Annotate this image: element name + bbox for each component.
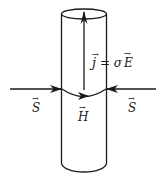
vector-arrow-S-left-icon: → (32, 94, 39, 103)
current-label-eq: = σ (100, 56, 123, 70)
vector-arrow-j-icon: → (92, 50, 99, 59)
vector-arrow-S-right-icon: → (128, 94, 135, 103)
vector-arrow-H-icon: → (79, 103, 86, 112)
poynting-left-label: S (32, 101, 40, 115)
poynting-right-label: S (128, 101, 136, 115)
vector-arrow-E-icon: → (124, 49, 131, 58)
current-label-E: E (123, 56, 133, 70)
magnetic-field-label: H (77, 110, 89, 124)
wire-poynting-diagram: j → = σ E → S → S → H → (0, 0, 164, 180)
